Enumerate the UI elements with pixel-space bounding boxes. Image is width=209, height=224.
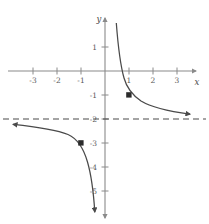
x-tick-label--3: -3 <box>29 76 37 85</box>
y-tick-label--1: -1 <box>90 91 97 100</box>
y-tick-label-1: 1 <box>92 43 97 52</box>
x-tick-label-3: 3 <box>175 76 180 85</box>
marked-point-1-neg1 <box>126 92 131 97</box>
marked-point-neg1-neg3 <box>78 140 83 145</box>
x-tick-label-2: 2 <box>151 76 156 85</box>
x-axis-label: x <box>195 77 200 87</box>
graph-figure: -3 -2 -1 1 2 3 x 1 -1 -2 <box>0 0 209 224</box>
y-axis-label: y <box>96 14 102 24</box>
x-axis: -3 -2 -1 1 2 3 x <box>8 68 200 88</box>
x-tick-label-1: 1 <box>127 76 132 85</box>
y-tick-label--3: -3 <box>90 139 98 148</box>
x-tick-label--2: -2 <box>53 76 61 85</box>
curve-left-branch <box>13 124 95 212</box>
y-tick-label--4: -4 <box>90 163 98 172</box>
x-tick-label--1: -1 <box>77 76 84 85</box>
coordinate-plane-svg: -3 -2 -1 1 2 3 x 1 -1 -2 <box>0 0 209 224</box>
